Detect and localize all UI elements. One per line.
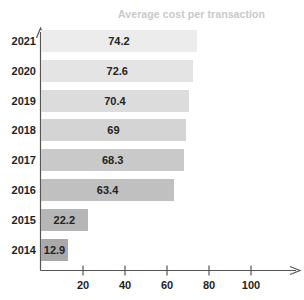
bar-value-label-2020: 72.6 [41,60,193,82]
year-label-2017: 2017 [2,149,36,171]
bar-value-label-2016: 63.4 [41,179,174,201]
year-label-2019: 2019 [2,90,36,112]
bar-value-label-2017: 68.3 [41,149,184,171]
bar-chart: Average cost per transaction 74.272.670.… [0,0,304,300]
x-tick-label-60: 60 [152,279,182,291]
year-label-2021: 2021 [2,30,36,52]
bar-value-label-2021: 74.2 [41,30,197,52]
year-label-2014: 2014 [2,239,36,261]
bar-value-label-2019: 70.4 [41,90,189,112]
x-tick-label-100: 100 [236,279,266,291]
year-label-2018: 2018 [2,119,36,141]
x-tick-label-80: 80 [194,279,224,291]
plot-area: 74.272.670.46968.363.422.212.9 202120202… [0,0,304,300]
year-label-2020: 2020 [2,60,36,82]
year-label-2016: 2016 [2,179,36,201]
x-tick-label-40: 40 [110,279,140,291]
bar-value-label-2014: 12.9 [41,239,68,261]
bar-value-label-2018: 69 [41,119,186,141]
x-tick-label-20: 20 [68,279,98,291]
year-label-2015: 2015 [2,209,36,231]
bar-value-label-2015: 22.2 [41,209,88,231]
